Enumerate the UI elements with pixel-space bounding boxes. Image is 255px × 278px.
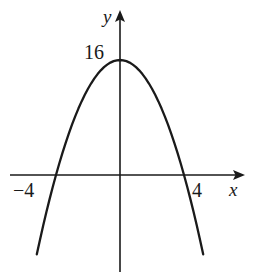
y-axis-label: y	[103, 7, 111, 26]
graph-canvas	[0, 0, 255, 278]
x-tick-label-negative-4: −4	[13, 180, 34, 200]
x-axis-label: x	[229, 180, 237, 199]
parabola-figure: y x 16 −4 4	[0, 0, 255, 278]
x-tick-label-positive-4: 4	[192, 180, 202, 200]
y-tick-label-16: 16	[84, 42, 104, 62]
